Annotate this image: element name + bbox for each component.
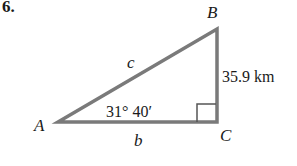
vertex-label-a: A [34,117,44,134]
side-length-bc: 35.9 km [222,69,274,85]
side-label-b: b [134,132,143,149]
right-angle-marker [197,104,216,122]
vertex-label-c: C [220,127,231,144]
angle-a-label: 31° 40′ [106,104,152,120]
problem-number: 6. [2,0,15,15]
vertex-label-b: B [207,4,217,21]
side-label-c: c [127,54,135,71]
